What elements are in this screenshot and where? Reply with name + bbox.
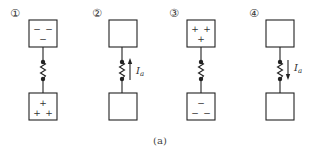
panel-4: ④ Ia [249,7,302,120]
panel-1: ① − − − + + + [10,7,57,120]
panel-1-label: ① [10,7,20,20]
panel-3-label: ③ [169,7,179,20]
bottom-box [266,93,294,120]
current-label: Ia [293,62,302,75]
top-box [266,20,294,47]
resistor-icon [278,62,283,79]
bottom-box [109,93,137,120]
panel-4-label: ④ [249,7,259,20]
resistor-icon [120,62,125,79]
charge-sign: − [191,108,199,118]
charge-sign: − [197,98,205,108]
arrow-down-icon [286,74,290,80]
charge-sign: + [33,108,41,118]
charge-sign: + [191,24,199,34]
charge-sign: + [45,108,53,118]
current-label: Ia [135,65,144,78]
charge-sign: + [203,24,211,34]
charge-sign: − [45,24,53,34]
panel-2: ② Ia [92,7,144,120]
panel-3: ③ + + + − − − [169,7,215,120]
top-box [109,20,137,47]
charge-sign: − [33,24,41,34]
resistor-icon [41,62,46,79]
arrow-up-icon [128,58,132,64]
charge-sign: + [197,34,205,44]
charge-sign: − [39,34,47,44]
charge-sign: + [39,98,47,108]
figure-caption: (a) [153,135,167,146]
charge-sign: − [203,108,211,118]
charge-diagram: ① − − − + + + ② Ia ③ + + + [0,0,319,156]
panel-2-label: ② [92,7,102,20]
resistor-icon [199,62,204,79]
